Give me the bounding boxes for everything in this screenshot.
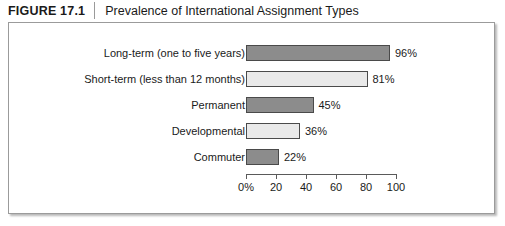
bar-row: Long-term (one to five years)96% (9, 45, 494, 61)
x-axis-tick-label: 40 (300, 181, 312, 193)
chart-panel: Long-term (one to five years)96%Short-te… (8, 22, 495, 214)
bar-chart-plot: Long-term (one to five years)96%Short-te… (9, 23, 494, 213)
x-axis-tick (306, 174, 307, 179)
x-axis-tick-label: 0% (238, 181, 254, 193)
bar-row: Permanent45% (9, 97, 494, 113)
bar (246, 71, 368, 87)
x-axis-tick-label: 80 (360, 181, 372, 193)
bar-value-label: 81% (368, 73, 395, 85)
x-axis-tick (396, 174, 397, 179)
bar-row: Developmental36% (9, 123, 494, 139)
bar-value-label: 45% (314, 99, 341, 111)
figure-title: Prevalence of International Assignment T… (95, 4, 358, 18)
x-axis-tick (276, 174, 277, 179)
bar-value-label: 22% (279, 151, 306, 163)
category-label: Permanent (191, 99, 245, 111)
bar-value-label: 96% (390, 47, 417, 59)
x-axis-tick (366, 174, 367, 179)
category-label: Commuter (194, 151, 245, 163)
category-label: Short-term (less than 12 months) (84, 73, 245, 85)
bar (246, 123, 300, 139)
figure-number: FIGURE 17.1 (8, 4, 94, 18)
bar (246, 97, 314, 113)
x-axis-line (246, 174, 396, 175)
bar (246, 45, 390, 61)
category-label: Long-term (one to five years) (104, 47, 245, 59)
x-axis-tick-label: 60 (330, 181, 342, 193)
bar-row: Commuter22% (9, 149, 494, 165)
category-label: Developmental (172, 125, 245, 137)
bar-row: Short-term (less than 12 months)81% (9, 71, 494, 87)
x-axis-tick (336, 174, 337, 179)
x-axis-tick-label: 20 (270, 181, 282, 193)
bar-value-label: 36% (300, 125, 327, 137)
bar (246, 149, 279, 165)
figure-header: FIGURE 17.1 Prevalence of International … (8, 0, 497, 21)
x-axis-tick (246, 174, 247, 179)
figure-container: FIGURE 17.1 Prevalence of International … (0, 0, 505, 226)
x-axis-tick-label: 100 (387, 181, 405, 193)
